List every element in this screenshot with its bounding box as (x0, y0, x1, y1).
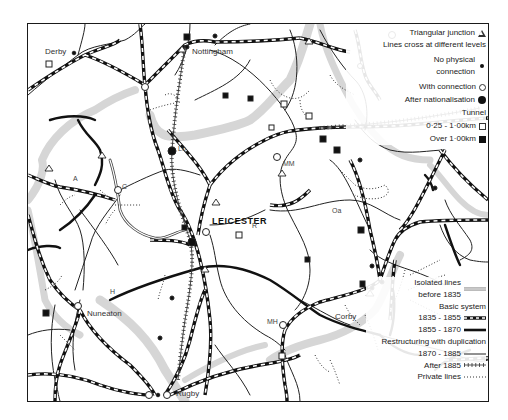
legend-label: 1855 - 1870 (418, 324, 461, 336)
legend-label: Triangular junction (409, 27, 475, 39)
open-circle-icon (479, 84, 486, 91)
ticked-line-icon (464, 363, 486, 367)
legend-label: Over 1·00km (430, 133, 476, 145)
legend-row-isolated: Isolated lines before 1835 (366, 277, 486, 301)
legend-row-with-connection: With connection (346, 81, 486, 93)
place-label-mm: MM (283, 160, 295, 167)
legend-row-tunnel-short: 0·25 - 1·00km (346, 120, 486, 132)
place-label-a: A (73, 175, 78, 182)
place-label-nuneaton: Nuneaton (87, 309, 122, 318)
legend-heading: Tunnel (462, 107, 486, 119)
legend-heading: Restructuring with duplication (382, 337, 487, 346)
legend-label: Private lines (417, 371, 461, 383)
thin-line-icon (464, 352, 486, 356)
legend-row-after-1885: After 1885 (366, 360, 486, 372)
filled-circle-icon (478, 96, 486, 104)
legend-label: After nationalisation (405, 94, 475, 106)
legend-row-basic-heading: Basic system (366, 301, 486, 313)
legend-label: Lines cross at different levels (383, 40, 486, 49)
legend-row-cross: Lines cross at different levels (346, 39, 486, 51)
legend-label: 0·25 - 1·00km (426, 120, 476, 132)
legend-row-1835-1855: 1835 - 1855 (366, 312, 486, 324)
legend-label: With connection (419, 81, 476, 93)
place-label-rugby: Rugby (176, 389, 199, 398)
legend-row-tunnel-long: Over 1·00km (346, 133, 486, 145)
dashed-thick-line-icon (464, 316, 486, 320)
place-label-h: H (110, 288, 115, 295)
legend-label: 1835 - 1855 (418, 312, 461, 324)
legend-row-tunnel-heading: Tunnel (346, 107, 486, 119)
place-label-derby: Derby (45, 47, 66, 56)
place-label-leicester: LEICESTER (212, 216, 267, 226)
legend-label: 1870 - 1885 (418, 348, 461, 360)
dotted-line-icon (464, 375, 486, 379)
legend-heading: Basic system (439, 301, 486, 313)
legend-row-restructuring-heading: Restructuring with duplication (366, 336, 486, 348)
legend-lines: Isolated lines before 1835 Basic system … (366, 277, 486, 383)
place-label-c: C (122, 183, 127, 190)
open-square-icon (479, 123, 486, 130)
place-label-r: R (252, 222, 257, 229)
legend-label: No physical connection (405, 54, 475, 78)
legend-label: After 1885 (424, 360, 461, 372)
legend-label: Isolated lines before 1835 (391, 277, 461, 301)
place-label-corby: Corby (335, 312, 356, 321)
legend-row-1855-1870: 1855 - 1870 (366, 324, 486, 336)
thick-line-icon (464, 328, 486, 332)
legend-row-1870-1885: 1870 - 1885 (366, 348, 486, 360)
legend-row-private: Private lines (366, 371, 486, 383)
filled-square-icon (479, 136, 486, 143)
legend-row-nationalisation: After nationalisation (346, 94, 486, 106)
place-label-oa: Oa (332, 207, 341, 214)
triangle-icon (478, 30, 486, 37)
legend-row-triangular: Triangular junction (346, 27, 486, 39)
legend-junctions: Triangular junction Lines cross at diffe… (346, 27, 486, 145)
triangular-junctions (45, 38, 374, 296)
place-label-nottingham: Nottingham (192, 47, 233, 56)
double-line-icon (464, 287, 486, 291)
small-dot-icon (480, 64, 484, 68)
place-label-mh: MH (267, 318, 278, 325)
legend-row-no-connection: No physical connection (346, 54, 486, 78)
place-label-lo: Lo (178, 145, 186, 152)
